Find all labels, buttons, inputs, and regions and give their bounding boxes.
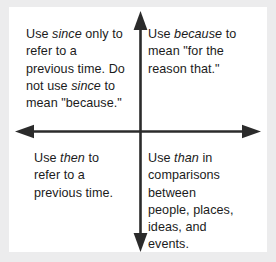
quadrant-text-because: Use because tomean "for thereason that.": [148, 26, 253, 78]
diagram-canvas: Use since only torefer to aprevious time…: [0, 0, 276, 262]
quadrant-text-since: Use since only torefer to aprevious time…: [26, 26, 138, 112]
quadrant-text-than: Use than incomparisonsbetweenpeople, pla…: [148, 150, 256, 254]
quadrant-text-then: Use then torefer to aprevious time.: [34, 150, 139, 202]
